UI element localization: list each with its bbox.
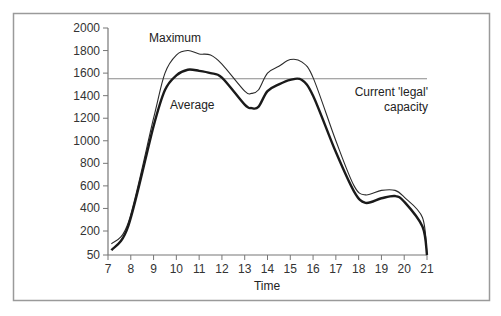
x-tick-label: 12 xyxy=(215,262,229,276)
x-tick-label: 11 xyxy=(193,262,206,276)
y-tick-label: 1000 xyxy=(73,134,100,148)
capacity-label-line1: Current 'legal' xyxy=(355,85,428,99)
x-tick-label: 10 xyxy=(170,262,184,276)
y-tick-label: 1600 xyxy=(73,66,100,80)
x-tick-label: 14 xyxy=(261,262,275,276)
x-tick-label: 19 xyxy=(375,262,389,276)
y-tick-label: 1800 xyxy=(73,44,100,58)
x-tick-label: 7 xyxy=(105,262,112,276)
x-tick-label: 17 xyxy=(329,262,343,276)
x-tick-label: 21 xyxy=(420,262,434,276)
y-tick-label: 1200 xyxy=(73,111,100,125)
x-axis-title: Time xyxy=(254,279,281,293)
x-tick-label: 9 xyxy=(150,262,157,276)
y-tick-label: 600 xyxy=(80,179,100,193)
y-tick-label: 50 xyxy=(87,248,101,262)
x-tick-label: 16 xyxy=(306,262,320,276)
x-tick-label: 13 xyxy=(238,262,252,276)
x-tick-label: 18 xyxy=(352,262,366,276)
x-tick-label: 20 xyxy=(398,262,412,276)
y-tick-label: 800 xyxy=(80,156,100,170)
maximum-series-label: Maximum xyxy=(149,31,201,45)
y-tick-label: 400 xyxy=(80,201,100,215)
y-tick-label: 1400 xyxy=(73,89,100,103)
x-tick-label: 8 xyxy=(127,262,134,276)
x-tick-label: 15 xyxy=(284,262,298,276)
capacity-label-line2: capacity xyxy=(384,100,428,114)
chart: 50200400600800100012001400160018002000 7… xyxy=(0,0,501,316)
y-tick-label: 200 xyxy=(80,224,100,238)
average-series-label: Average xyxy=(170,98,215,112)
y-tick-label: 2000 xyxy=(73,21,100,35)
